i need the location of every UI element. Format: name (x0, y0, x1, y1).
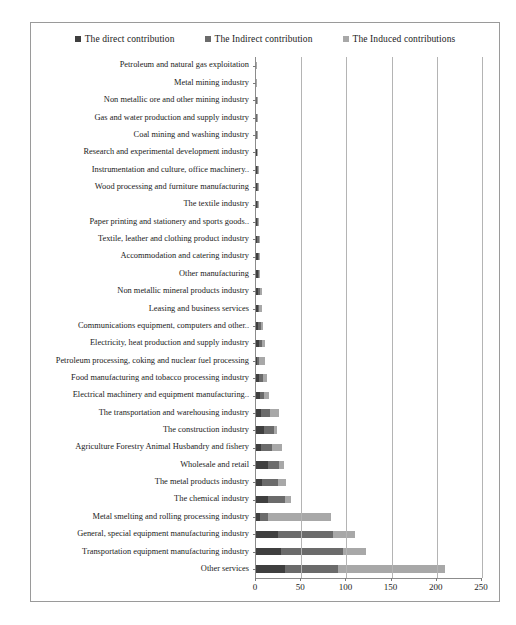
stacked-bar (256, 426, 277, 434)
bar-row[interactable] (256, 265, 482, 282)
stacked-bar (256, 357, 265, 365)
bar-row[interactable] (256, 144, 482, 161)
bar-row[interactable] (256, 508, 482, 525)
bar-row[interactable] (256, 474, 482, 491)
y-axis-tick (253, 66, 256, 67)
bar-segment (278, 479, 286, 487)
category-label: Petroleum processing, coking and nuclear… (34, 352, 252, 369)
bar-row[interactable] (256, 352, 482, 369)
x-tick-mark (300, 578, 301, 581)
bar-segment (258, 183, 259, 191)
bar-row[interactable] (256, 317, 482, 334)
bar-row[interactable] (256, 422, 482, 439)
bar-row[interactable] (256, 369, 482, 386)
bar-row[interactable] (256, 456, 482, 473)
category-label: Communications equipment, computers and … (34, 317, 252, 334)
bar-row[interactable] (256, 248, 482, 265)
legend-entry[interactable]: The Induced contributions (343, 34, 456, 44)
bar-row[interactable] (256, 109, 482, 126)
bar-segment (264, 426, 274, 434)
x-tick-mark (255, 578, 256, 581)
stacked-bar (256, 79, 257, 87)
bar-segment (278, 531, 333, 539)
bar-row[interactable] (256, 283, 482, 300)
bar-row[interactable] (256, 560, 482, 577)
x-tick-mark (436, 578, 437, 581)
x-tick-label: 50 (296, 582, 305, 592)
bar-row[interactable] (256, 404, 482, 421)
bar-row[interactable] (256, 543, 482, 560)
x-tick-label: 100 (339, 582, 353, 592)
legend-entry[interactable]: The Indirect contribution (205, 34, 313, 44)
gridline (392, 57, 393, 578)
bar-row[interactable] (256, 92, 482, 109)
category-label: The textile industry (34, 196, 252, 213)
stacked-bar (256, 496, 291, 504)
bar-segment (261, 409, 269, 417)
stacked-bar (256, 340, 265, 348)
bar-segment (256, 426, 264, 434)
legend-entry[interactable]: The direct contribution (75, 34, 175, 44)
y-axis-tick (253, 534, 256, 535)
stacked-bar (256, 149, 258, 157)
bar-row[interactable] (256, 491, 482, 508)
x-tick-label: 250 (474, 582, 488, 592)
stacked-bar (256, 201, 259, 209)
bar-segment (260, 513, 268, 521)
bar-row[interactable] (256, 213, 482, 230)
y-axis-tick (253, 205, 256, 206)
y-axis-tick (253, 482, 256, 483)
category-label: Accommodation and catering industry (34, 248, 252, 265)
bar-row[interactable] (256, 161, 482, 178)
stacked-bar (256, 114, 257, 122)
category-label: Electricity, heat production and supply … (34, 335, 252, 352)
category-label: Food manufacturing and tobacco processin… (34, 369, 252, 386)
x-axis-ticks: 050100150200250 (255, 578, 481, 600)
bar-row[interactable] (256, 196, 482, 213)
legend-label: The direct contribution (85, 34, 175, 44)
bar-segment (268, 496, 285, 504)
stacked-bar (256, 166, 258, 174)
square-marker-icon (205, 36, 211, 42)
plot-area (255, 57, 482, 578)
stacked-bar (256, 62, 257, 70)
category-label: Gas and water production and supply indu… (34, 109, 252, 126)
category-label: The transportation and warehousing indus… (34, 404, 252, 421)
bar-row[interactable] (256, 335, 482, 352)
category-label: Wood processing and furniture manufactur… (34, 179, 252, 196)
bar-segment (256, 548, 281, 556)
bar-segment (258, 166, 259, 174)
bar-row[interactable] (256, 387, 482, 404)
stacked-bar (256, 392, 269, 400)
bar-row[interactable] (256, 126, 482, 143)
y-axis-tick (253, 187, 256, 188)
bar-row[interactable] (256, 439, 482, 456)
bar-row[interactable] (256, 526, 482, 543)
category-label: Research and experimental development in… (34, 144, 252, 161)
y-axis-tick (253, 309, 256, 310)
bar-row[interactable] (256, 57, 482, 74)
y-axis-tick (253, 343, 256, 344)
category-labels-axis: Petroleum and natural gas exploitationMe… (34, 57, 252, 578)
bar-segment (258, 201, 259, 209)
bar-segment (281, 548, 342, 556)
bar-segment (256, 531, 278, 539)
bar-segment (279, 461, 284, 469)
stacked-bar (256, 253, 260, 261)
legend-label: The Induced contributions (353, 34, 456, 44)
bar-segment (333, 531, 356, 539)
bar-row[interactable] (256, 74, 482, 91)
y-axis-tick (253, 500, 256, 501)
category-label: Transportation equipment manufacturing i… (34, 543, 252, 560)
y-axis-tick (253, 152, 256, 153)
stacked-bar (256, 479, 286, 487)
bar-row[interactable] (256, 231, 482, 248)
category-label: Petroleum and natural gas exploitation (34, 57, 252, 74)
y-axis-tick (253, 291, 256, 292)
category-label: Instrumentation and culture, office mach… (34, 161, 252, 178)
y-axis-tick (253, 257, 256, 258)
bar-row[interactable] (256, 300, 482, 317)
bar-row[interactable] (256, 179, 482, 196)
stacked-bar (256, 322, 263, 330)
y-axis-tick (253, 413, 256, 414)
